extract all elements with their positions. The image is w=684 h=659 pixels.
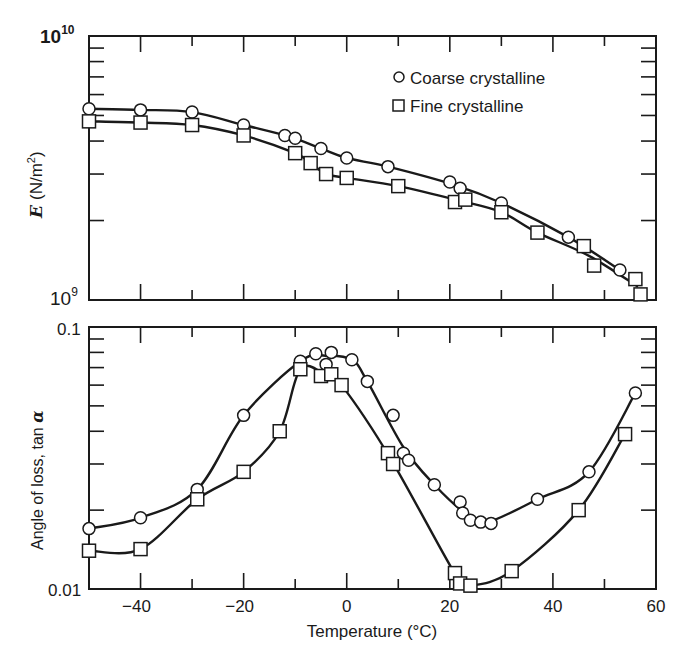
data-point-square	[340, 171, 353, 184]
data-point-circle	[135, 104, 147, 116]
data-point-square	[459, 193, 472, 206]
data-point-square	[464, 579, 477, 592]
data-point-circle	[531, 493, 543, 505]
data-point-square	[387, 457, 400, 470]
legend: Coarse crystalline Fine crystalline	[393, 69, 545, 116]
data-point-square	[237, 129, 250, 142]
data-point-square	[320, 168, 333, 181]
data-point-square	[186, 119, 199, 132]
legend-label-coarse: Coarse crystalline	[410, 69, 545, 88]
fit-curve-square	[89, 366, 625, 591]
data-point-circle	[403, 454, 415, 466]
data-point-circle	[562, 231, 574, 243]
data-point-square	[237, 465, 250, 478]
data-point-circle	[310, 348, 322, 360]
data-point-square	[83, 544, 96, 557]
data-point-circle	[341, 152, 353, 164]
x-tick-label: 20	[440, 597, 459, 616]
data-point-square	[83, 115, 96, 128]
data-point-square	[294, 363, 307, 376]
x-axis-label: Temperature (°C)	[307, 622, 438, 641]
data-point-circle	[83, 103, 95, 115]
x-tick-label: 40	[543, 597, 562, 616]
data-point-square	[304, 157, 317, 170]
data-point-circle	[387, 409, 399, 421]
data-point-square	[273, 425, 286, 438]
legend-square-icon	[393, 100, 404, 111]
data-point-circle	[454, 496, 466, 508]
x-tick-label: 60	[647, 597, 666, 616]
data-point-circle	[186, 106, 198, 118]
data-point-circle	[614, 264, 626, 276]
data-point-square	[289, 147, 302, 160]
x-tick-labels: −40−200204060	[122, 597, 665, 616]
top-panel: 1010 109 E(N/m2) Coarse crystalline Fine…	[25, 23, 656, 309]
data-point-square	[577, 240, 590, 253]
data-point-square	[505, 565, 518, 578]
data-point-circle	[629, 387, 641, 399]
data-point-square	[191, 493, 204, 506]
data-point-square	[134, 116, 147, 129]
data-point-circle	[83, 523, 95, 535]
top-plot-frame	[89, 36, 656, 300]
x-tick-label: −40	[122, 597, 151, 616]
data-point-circle	[315, 142, 327, 154]
data-point-circle	[583, 466, 595, 478]
data-point-square	[629, 273, 642, 286]
bottom-plot-frame	[89, 327, 656, 589]
data-point-circle	[238, 409, 250, 421]
top-ytick-label-1e9: 109	[50, 285, 78, 309]
bottom-ylabel: Angle of loss, tan α	[28, 411, 47, 551]
top-axis-ticks	[89, 36, 656, 300]
bottom-axis-ticks	[89, 327, 656, 589]
data-point-circle	[428, 479, 440, 491]
x-tick-label: 0	[342, 597, 351, 616]
data-point-circle	[135, 512, 147, 524]
bottom-markers	[83, 346, 642, 592]
top-ytick-label-1e10: 1010	[40, 23, 75, 47]
data-point-circle	[289, 132, 301, 144]
bottom-panel: 0.1 0.01 Angle of loss, tan α −40−200204…	[28, 320, 665, 641]
data-point-circle	[485, 517, 497, 529]
data-point-square	[588, 259, 601, 272]
data-point-square	[495, 206, 508, 219]
data-point-circle	[346, 354, 358, 366]
bottom-curves	[89, 355, 635, 591]
fit-curve-circle	[89, 109, 620, 270]
legend-circle-icon	[394, 72, 404, 82]
data-point-square	[335, 379, 348, 392]
data-point-square	[134, 543, 147, 556]
figure: 1010 109 E(N/m2) Coarse crystalline Fine…	[0, 0, 684, 659]
data-point-square	[619, 428, 632, 441]
bottom-ytick-label-0-1: 0.1	[57, 320, 81, 339]
chart-canvas: 1010 109 E(N/m2) Coarse crystalline Fine…	[0, 0, 684, 659]
legend-label-fine: Fine crystalline	[410, 97, 523, 116]
top-markers	[83, 103, 648, 301]
bottom-ytick-label-0-01: 0.01	[48, 581, 81, 600]
data-point-circle	[325, 346, 337, 358]
x-tick-label: −20	[225, 597, 254, 616]
data-point-circle	[382, 161, 394, 173]
data-point-square	[634, 288, 647, 301]
top-curves	[89, 109, 638, 287]
data-point-circle	[361, 375, 373, 387]
data-point-square	[392, 180, 405, 193]
top-ylabel: E(N/m2)	[25, 151, 46, 219]
data-point-square	[531, 226, 544, 239]
data-point-square	[572, 504, 585, 517]
fit-curve-square	[89, 121, 638, 286]
